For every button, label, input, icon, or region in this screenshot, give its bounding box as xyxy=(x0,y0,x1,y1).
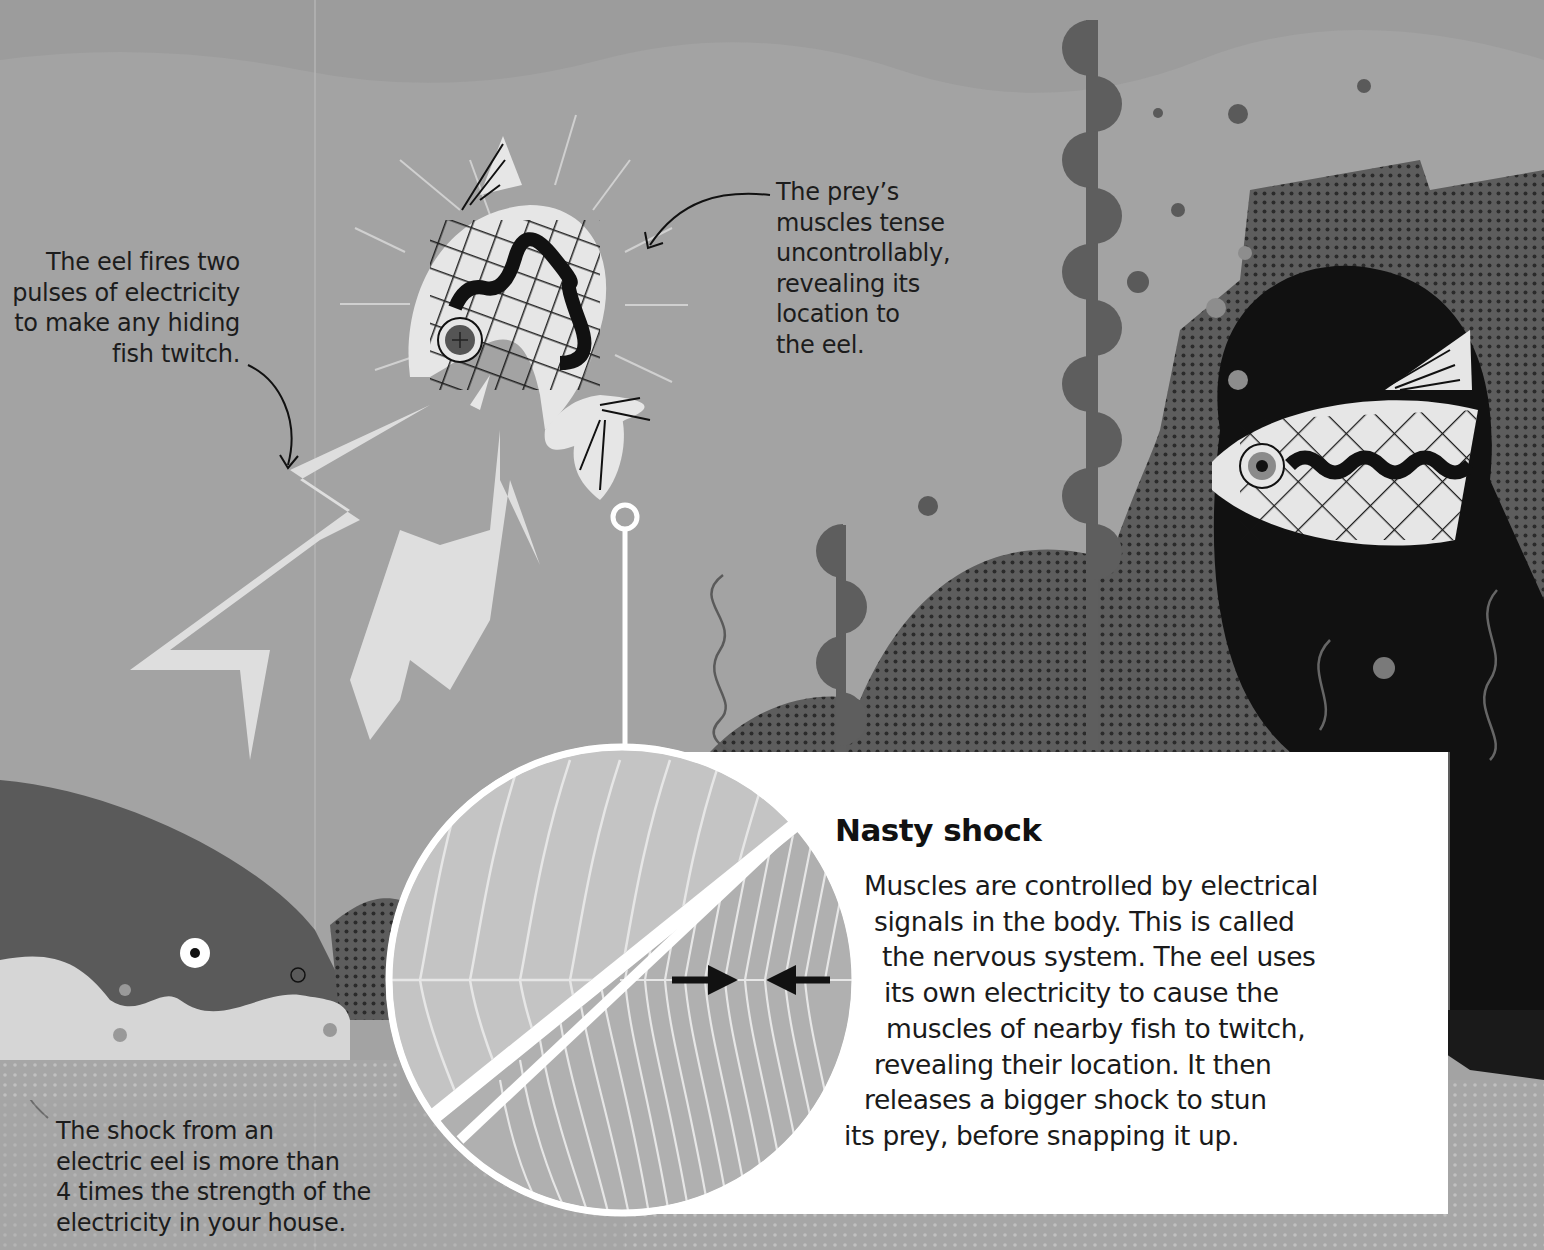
body-line: signals in the body. This is called xyxy=(830,904,1390,940)
caption-line: the eel. xyxy=(776,330,996,361)
info-panel-body: Muscles are controlled by electrical sig… xyxy=(830,868,1390,1154)
info-panel-title: Nasty shock xyxy=(835,812,1041,848)
caption-line: to make any hiding xyxy=(0,308,240,339)
body-line: releases a bigger shock to stun xyxy=(830,1082,1390,1118)
caption-line: electric eel is more than xyxy=(56,1147,416,1178)
caption-line: revealing its xyxy=(776,269,996,300)
body-line: muscles of nearby fish to twitch, xyxy=(830,1011,1390,1047)
caption-line: The prey’s xyxy=(776,177,996,208)
caption-line: muscles tense xyxy=(776,208,996,239)
body-line: Muscles are controlled by electrical xyxy=(830,868,1390,904)
caption-shock-strength: The shock from an electric eel is more t… xyxy=(56,1116,416,1238)
caption-line: fish twitch. xyxy=(0,339,240,370)
caption-line: 4 times the strength of the xyxy=(56,1177,416,1208)
caption-line: pulses of electricity xyxy=(0,278,240,309)
caption-line: The eel fires two xyxy=(0,247,240,278)
caption-prey-muscles: The prey’s muscles tense uncontrollably,… xyxy=(776,177,996,360)
caption-line: electricity in your house. xyxy=(56,1208,416,1239)
body-line: its prey, before snapping it up. xyxy=(830,1118,1390,1154)
caption-line: uncontrollably, xyxy=(776,238,996,269)
caption-eel-pulses: The eel fires two pulses of electricity … xyxy=(0,247,240,369)
body-line: the nervous system. The eel uses xyxy=(830,939,1390,975)
caption-line: location to xyxy=(776,299,996,330)
body-line: its own electricity to cause the xyxy=(830,975,1390,1011)
caption-line: The shock from an xyxy=(56,1116,416,1147)
body-line: revealing their location. It then xyxy=(830,1047,1390,1083)
